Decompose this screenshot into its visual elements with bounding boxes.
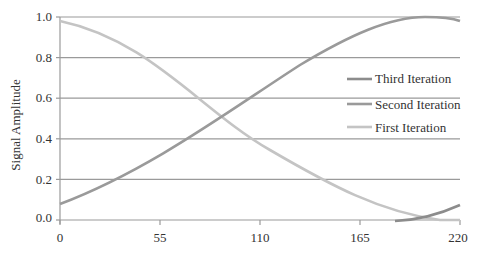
y-tick-label: 1.0	[36, 9, 52, 24]
y-tick-label: 0.4	[36, 131, 53, 146]
y-tick-label: 0.8	[36, 50, 52, 65]
legend-label-second: Second Iteration	[375, 97, 461, 112]
x-tick-label: 165	[350, 230, 370, 245]
legend-label-first: First Iteration	[375, 120, 447, 135]
gridlines	[60, 17, 460, 220]
x-tick-labels: 0 55 110 165 220	[57, 230, 468, 245]
x-tick-label: 220	[448, 230, 468, 245]
x-tick-label: 0	[57, 230, 64, 245]
x-tick-label: 55	[154, 230, 167, 245]
legend: Third Iteration Second Iteration First I…	[347, 71, 461, 135]
y-tick-label: 0.2	[36, 172, 52, 187]
y-axis-label: Signal Amplitude	[8, 79, 23, 171]
y-tick-label: 0.6	[36, 90, 53, 105]
y-tick-labels: 0.0 0.2 0.4 0.6 0.8 1.0	[36, 9, 53, 225]
x-tick-label: 110	[250, 230, 269, 245]
legend-label-third: Third Iteration	[375, 71, 452, 86]
line-chart: 0.0 0.2 0.4 0.6 0.8 1.0 0 55 110 165 220…	[0, 0, 478, 253]
y-tick-label: 0.0	[36, 210, 52, 225]
